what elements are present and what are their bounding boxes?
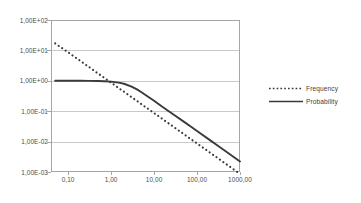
- x-axis-tick: [240, 172, 241, 175]
- y-axis-tick-label: 1,00E-01: [2, 108, 48, 115]
- x-axis-tick-label: 0,10: [62, 176, 75, 184]
- gridline: [52, 142, 239, 143]
- y-axis-tick-label: 1,00E+02: [2, 17, 48, 24]
- y-axis-tick-label: 1,00E-02: [2, 138, 48, 145]
- legend-label-probability: Probability: [304, 97, 338, 106]
- gridline: [52, 50, 239, 51]
- x-axis-tick-label: 100,00: [187, 176, 207, 184]
- legend-item-probability[interactable]: Probability: [268, 95, 358, 108]
- legend-label-frequency: Frequency: [304, 84, 338, 93]
- x-axis-tick-label: 1000,00: [228, 176, 252, 184]
- x-axis-tick-label: 10,00: [146, 176, 163, 184]
- y-axis-tick-label: 1,00E+00: [2, 77, 48, 84]
- y-axis-tick-label: 1,00E+01: [2, 47, 48, 54]
- x-axis-tick-label: 1,00: [105, 176, 118, 184]
- solid-line-icon: [268, 97, 304, 106]
- legend-item-frequency[interactable]: Frequency: [268, 82, 358, 95]
- plot-area: [51, 20, 240, 172]
- gridline: [52, 81, 239, 82]
- gridline: [52, 111, 239, 112]
- x-axis-tick: [154, 172, 155, 175]
- y-axis-tick: [47, 172, 51, 173]
- chart-legend: Frequency Probability: [268, 82, 358, 108]
- dotted-line-icon: [268, 84, 304, 93]
- x-axis-tick: [197, 172, 198, 175]
- x-axis-tick: [68, 172, 69, 175]
- y-axis: 1,00E+021,00E+011,00E+001,00E-011,00E-02…: [0, 20, 48, 172]
- x-axis-tick: [111, 172, 112, 175]
- x-axis: 0,101,0010,00100,001000,00: [0, 174, 361, 188]
- chart-container: 1,00E+021,00E+011,00E+001,00E-011,00E-02…: [0, 0, 361, 203]
